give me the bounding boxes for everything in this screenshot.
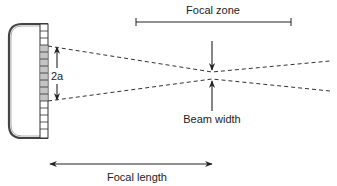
transducer-focus-diagram: 2a Focal zone Beam width Focal length [0, 0, 337, 186]
aperture-label: 2a [51, 70, 64, 82]
beam-lower-edge [48, 79, 330, 101]
beam-upper-edge [48, 46, 330, 72]
aperture-dimension: 2a [51, 47, 64, 100]
focal-length-label: Focal length [107, 171, 167, 183]
transducer [9, 24, 48, 138]
beam-profile [48, 46, 330, 101]
focal-zone-bracket [136, 18, 291, 26]
focal-zone-label: Focal zone [186, 4, 240, 16]
beam-width-label: Beam width [183, 113, 240, 125]
transducer-element-array [40, 24, 48, 138]
